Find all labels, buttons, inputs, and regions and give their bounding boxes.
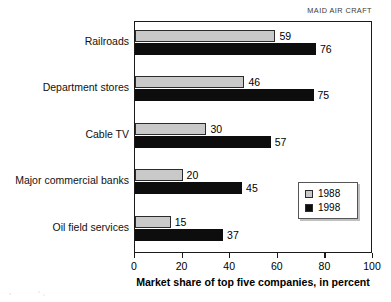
- bar-value-label: 30: [210, 123, 222, 135]
- bar-group: 5976: [135, 22, 371, 68]
- bar-1998: [135, 229, 223, 241]
- x-axis-title: Market share of top five companies, in p…: [134, 276, 372, 288]
- category-label: Cable TV: [0, 128, 129, 140]
- x-tick-label: 80: [319, 260, 331, 272]
- legend-swatch-1988: [305, 190, 313, 198]
- x-tick-mark: [229, 253, 230, 258]
- bar-1988: [135, 30, 275, 42]
- bar-1998: [135, 43, 316, 55]
- x-tick-mark: [277, 253, 278, 258]
- category-label: Railroads: [0, 35, 129, 47]
- x-tick-label: 40: [223, 260, 235, 272]
- x-tick-label: 0: [131, 260, 137, 272]
- bar-chart-figure: MAID AIR CRAFT 59764675305720451537 Rail…: [0, 0, 391, 302]
- bar-value-label: 76: [320, 43, 332, 55]
- bar-group: 3057: [135, 115, 371, 161]
- legend: 1988 1998: [298, 182, 358, 219]
- bar-1988: [135, 169, 183, 181]
- legend-item-1998: 1998: [305, 202, 340, 214]
- bar-group: 4675: [135, 68, 371, 114]
- category-label: Department stores: [0, 81, 129, 93]
- source-caption: MAID AIR CRAFT: [307, 6, 372, 15]
- bar-value-label: 45: [246, 182, 258, 194]
- x-tick-mark: [182, 253, 183, 258]
- x-tick-label: 20: [176, 260, 188, 272]
- bar-value-label: 15: [175, 216, 187, 228]
- x-tick-mark: [372, 253, 373, 258]
- bar-value-label: 59: [279, 30, 291, 42]
- category-label: Major commercial banks: [0, 174, 129, 186]
- bar-1988: [135, 216, 171, 228]
- bar-1988: [135, 123, 206, 135]
- category-label: Oil field services: [0, 221, 129, 233]
- x-tick-mark: [134, 253, 135, 258]
- legend-label-1988: 1988: [318, 188, 340, 200]
- bar-1998: [135, 136, 271, 148]
- legend-item-1988: 1988: [305, 188, 340, 200]
- x-tick-label: 100: [363, 260, 381, 272]
- legend-label-1998: 1998: [318, 202, 340, 214]
- x-tick-label: 60: [271, 260, 283, 272]
- x-tick-mark: [324, 253, 325, 258]
- bar-1988: [135, 76, 244, 88]
- bar-value-label: 75: [318, 89, 330, 101]
- bar-value-label: 37: [227, 229, 239, 241]
- bar-value-label: 20: [187, 169, 199, 181]
- legend-swatch-1998: [305, 204, 313, 212]
- bar-1998: [135, 89, 314, 101]
- bar-1998: [135, 182, 242, 194]
- bar-value-label: 57: [275, 136, 287, 148]
- scan-artifact: [6, 288, 66, 298]
- bar-value-label: 46: [248, 76, 260, 88]
